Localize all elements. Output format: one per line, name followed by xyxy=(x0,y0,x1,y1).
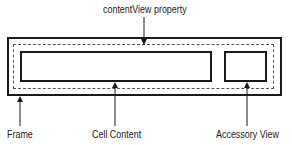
arrows xyxy=(0,0,292,145)
content-view-label: contentView property xyxy=(103,3,187,15)
frame-label: Frame xyxy=(7,128,33,140)
cell-content-label: Cell Content xyxy=(92,128,141,140)
accessory-view-label: Accessory View xyxy=(216,128,279,140)
